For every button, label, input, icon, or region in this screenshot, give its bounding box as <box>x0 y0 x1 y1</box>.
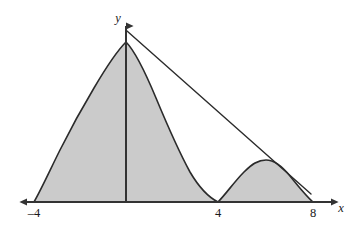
graph-figure: x y –4 4 8 <box>0 0 360 235</box>
x-tick-label-minus-4: –4 <box>27 206 41 220</box>
x-axis-label: x <box>337 201 344 215</box>
x-tick-label-8: 8 <box>310 206 316 220</box>
shaded-regions <box>34 42 313 202</box>
y-axis-label: y <box>113 11 121 25</box>
x-tick-label-4: 4 <box>215 206 222 220</box>
figure-container: x y –4 4 8 <box>0 0 360 235</box>
second-hump-region <box>218 160 313 202</box>
x-tick-labels: –4 4 8 <box>27 206 316 220</box>
